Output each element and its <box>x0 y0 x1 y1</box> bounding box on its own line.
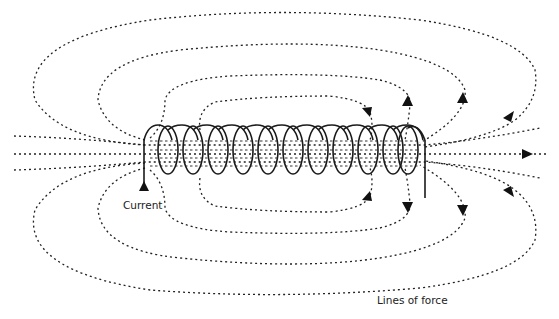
field-loop-lower-1 <box>33 161 535 295</box>
field-loop-lower-4 <box>200 168 372 212</box>
axis-arrow-icon <box>522 149 533 159</box>
field-arrow-icon <box>402 202 413 213</box>
solenoid-coil <box>144 125 425 198</box>
lines-of-force-label: Lines of force <box>377 294 448 306</box>
field-arrow-icon <box>402 95 413 106</box>
current-arrow-icon <box>139 181 149 191</box>
field-loop-lower-2 <box>98 165 465 264</box>
field-arrow-icon <box>362 107 372 117</box>
upper-field-loops <box>33 13 535 148</box>
field-arrow-icon <box>362 191 372 201</box>
solenoid-diagram: Current Lines of force <box>0 0 559 319</box>
lower-field-loops <box>33 161 535 295</box>
field-arrow-icon <box>457 205 468 216</box>
field-loop-upper-1 <box>33 13 535 148</box>
field-loop-upper-2 <box>98 44 465 143</box>
field-arrow-icon <box>503 111 514 122</box>
core-field-lines <box>14 128 540 178</box>
field-arrow-icon <box>457 92 468 103</box>
current-label: Current <box>123 199 162 211</box>
